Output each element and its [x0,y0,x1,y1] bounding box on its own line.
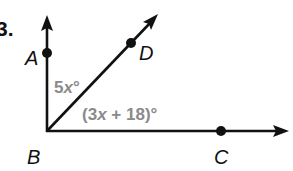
point-d-label: D [139,42,153,64]
angle-dbc-label: (3x + 18)° [82,105,158,124]
problem-number: 3. [0,17,14,40]
vertex-b-label: B [27,146,40,168]
angle-diagram: 3. A D B C 5x° (3x + 18)° [0,0,293,171]
point-a-label: A [24,47,38,69]
ray-bc [46,125,289,137]
point-a-dot [42,48,52,58]
point-c-label: C [214,146,229,168]
angle-abd-label: 5x° [54,78,80,97]
ray-ba [41,15,53,132]
point-c-dot [216,126,226,136]
point-d-dot [126,38,136,48]
